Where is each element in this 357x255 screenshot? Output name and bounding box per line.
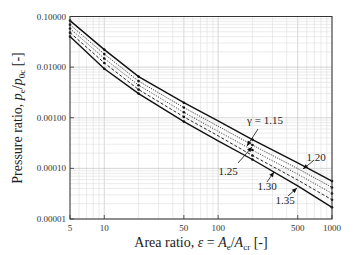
data-point bbox=[183, 106, 186, 109]
x-tick-label: 1000 bbox=[323, 223, 342, 233]
data-curves bbox=[70, 21, 332, 208]
x-axis-label: Area ratio, ε = Ae/Acr [-] bbox=[134, 235, 267, 252]
arrowhead-icon bbox=[247, 141, 252, 146]
data-point bbox=[251, 144, 254, 147]
x-tick-label: 50 bbox=[179, 223, 189, 233]
data-point bbox=[251, 149, 254, 152]
curve-annotation-label: 1.20 bbox=[306, 151, 326, 163]
data-point bbox=[137, 75, 140, 78]
y-tick-label: 0.00001 bbox=[37, 214, 66, 224]
arrowhead-icon bbox=[269, 172, 274, 177]
y-axis-ticks: 0.000010.000100.001000.010000.10000 bbox=[37, 12, 74, 225]
data-point bbox=[251, 154, 254, 157]
series-curve bbox=[70, 25, 332, 188]
y-tick-label: 0.10000 bbox=[37, 12, 67, 22]
data-point bbox=[183, 111, 186, 114]
y-tick-label: 0.00010 bbox=[37, 163, 67, 173]
x-axis-ticks: 510501005001000 bbox=[68, 215, 342, 233]
data-point bbox=[183, 120, 186, 123]
data-point bbox=[103, 62, 106, 65]
x-tick-label: 100 bbox=[211, 223, 225, 233]
curve-annotation-label: 1.35 bbox=[275, 194, 295, 206]
data-point bbox=[137, 84, 140, 87]
x-tick-label: 5 bbox=[68, 223, 73, 233]
y-axis-label: Pressure ratio, pe/p0c [-] bbox=[10, 52, 27, 183]
data-point bbox=[103, 57, 106, 60]
data-point bbox=[137, 88, 140, 91]
y-tick-label: 0.00100 bbox=[37, 113, 67, 123]
grid-lines bbox=[70, 17, 332, 220]
data-point bbox=[183, 101, 186, 104]
curve-annotation-label: γ = 1.15 bbox=[246, 114, 283, 126]
data-point bbox=[103, 53, 106, 56]
y-tick-label: 0.01000 bbox=[37, 62, 67, 72]
data-point bbox=[137, 80, 140, 83]
data-point bbox=[103, 67, 106, 70]
x-tick-label: 500 bbox=[291, 223, 305, 233]
data-point bbox=[251, 158, 254, 161]
data-point bbox=[103, 48, 106, 51]
x-tick-label: 10 bbox=[100, 223, 110, 233]
data-point bbox=[183, 116, 186, 119]
data-point bbox=[137, 92, 140, 95]
curve-annotation-label: 1.25 bbox=[218, 165, 238, 177]
pressure-ratio-chart: 510501005001000 0.000010.000100.001000.0… bbox=[0, 0, 357, 255]
series-curve bbox=[70, 21, 332, 182]
data-markers bbox=[69, 19, 334, 208]
